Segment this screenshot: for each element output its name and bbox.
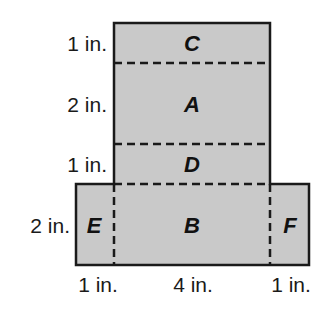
row-dimension-b: 2 in.	[30, 214, 70, 237]
row-dimension-a: 2 in.	[67, 93, 107, 116]
region-label-d: D	[184, 152, 200, 177]
column-dimension-e: 1 in.	[78, 273, 118, 296]
row-dimension-c: 1 in.	[67, 32, 107, 55]
region-label-e: E	[87, 213, 103, 238]
region-label-b: B	[184, 213, 200, 238]
row-dimension-d: 1 in.	[67, 153, 107, 176]
region-label-f: F	[283, 213, 297, 238]
region-label-a: A	[183, 92, 200, 117]
column-dimension-f: 1 in.	[271, 273, 311, 296]
column-dimension-b: 4 in.	[173, 273, 213, 296]
region-label-c: C	[184, 31, 201, 56]
prism-net-diagram: C A D B E F 1 in. 2 in. 1 in. 2 in. 1 in…	[0, 0, 329, 314]
